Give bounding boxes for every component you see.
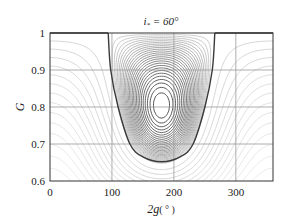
chart-title: i* = 60°: [144, 15, 179, 29]
y-tick-label: 0.9: [31, 64, 45, 76]
x-axis-title-unit: ( ° ): [159, 204, 175, 216]
x-axis-title: 2g( ° ): [147, 202, 175, 216]
y-axis-title: G: [13, 102, 27, 111]
y-tick-label: 0.6: [31, 175, 45, 187]
x-tick-label: 300: [228, 186, 245, 198]
x-tick-label: 200: [166, 186, 183, 198]
x-tick-label: 0: [47, 186, 53, 198]
contour-lines: [50, 35, 273, 182]
title-value: = 60°: [150, 15, 179, 27]
y-tick-label: 1: [40, 27, 46, 39]
contour-chart: i* = 60° 0.6 0.7 0.8 0.9 1 0 100 200 300…: [0, 0, 288, 223]
y-tick-label: 0.8: [31, 101, 45, 113]
x-tick-label: 100: [104, 186, 121, 198]
y-tick-label: 0.7: [31, 138, 45, 150]
x-axis-title-main: 2g: [147, 202, 159, 216]
